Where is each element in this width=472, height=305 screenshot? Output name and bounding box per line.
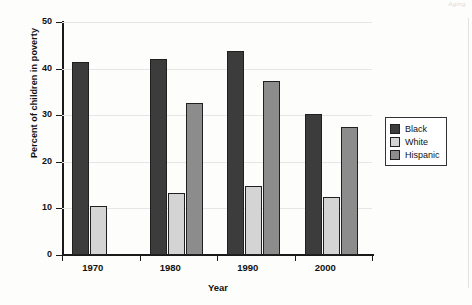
y-axis-tick (56, 115, 62, 116)
bar-1990-black (227, 51, 244, 255)
y-axis-tick-label: 10 (30, 203, 52, 212)
y-axis-tick (56, 162, 62, 163)
x-axis-tick (217, 256, 218, 261)
legend-swatch-icon (390, 124, 400, 134)
y-axis-title: Percent of children in poverty (29, 13, 39, 173)
x-axis-tick (140, 256, 141, 261)
chart-page: Aging 01020304050 Percent of children in… (0, 0, 472, 305)
legend-item-hispanic[interactable]: Hispanic (390, 148, 440, 161)
y-axis-tick (56, 255, 62, 256)
bar-1970-white (90, 206, 107, 255)
gridline (62, 69, 372, 70)
y-axis-tick (56, 69, 62, 70)
page-margin-rule (468, 18, 469, 288)
gridline (62, 162, 372, 163)
bar-1970-black (72, 62, 89, 255)
x-axis-tick-label-1980: 1980 (140, 262, 200, 273)
gridline (62, 115, 372, 116)
x-axis-tick (62, 256, 63, 261)
legend-label: Black (405, 124, 427, 134)
bar-1980-white (168, 193, 185, 255)
legend-label: Hispanic (405, 150, 440, 160)
plot-area (62, 22, 372, 255)
x-axis-tick-label-1990: 1990 (218, 262, 278, 273)
x-axis-tick (372, 256, 373, 261)
x-axis-title: Year (62, 282, 374, 293)
bar-2000-hispanic (341, 127, 358, 255)
bar-1980-black (150, 59, 167, 255)
legend-label: White (405, 137, 428, 147)
bar-1990-hispanic (263, 81, 280, 255)
bar-1980-hispanic (186, 103, 203, 255)
legend-swatch-icon (390, 137, 400, 147)
gridline (62, 22, 372, 23)
chart-legend[interactable]: BlackWhiteHispanic (385, 117, 447, 166)
y-axis-tick-label: 0 (30, 250, 52, 259)
y-axis-tick (56, 22, 62, 23)
x-axis-tick (295, 256, 296, 261)
page-header-artifact: Aging (448, 1, 466, 7)
bar-1990-white (245, 186, 262, 255)
legend-item-black[interactable]: Black (390, 122, 440, 135)
legend-item-white[interactable]: White (390, 135, 440, 148)
legend-swatch-icon (390, 150, 400, 160)
bar-2000-black (305, 114, 322, 255)
bar-2000-white (323, 197, 340, 255)
x-axis-tick-label-1970: 1970 (63, 262, 123, 273)
y-axis-tick (56, 208, 62, 209)
x-axis-tick-label-2000: 2000 (295, 262, 355, 273)
